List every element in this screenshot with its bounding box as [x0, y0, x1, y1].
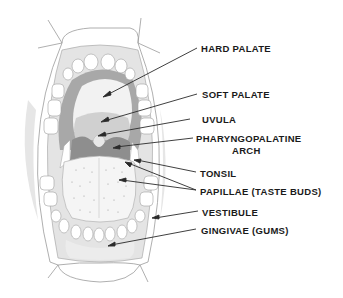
- label-gingivae: GINGIVAE (GUMS): [201, 225, 289, 236]
- cheek-shade-left: [25, 100, 38, 220]
- label-papillae: PAPILLAE (TASTE BUDS): [200, 186, 322, 197]
- label-uvula: UVULA: [202, 114, 236, 125]
- label-vestibule: VESTIBULE: [202, 207, 258, 218]
- label-tonsil: TONSIL: [200, 168, 236, 179]
- lower-lip: [48, 263, 148, 282]
- oral-cavity-diagram: [0, 0, 343, 298]
- label-pharyngopalatine-arch: PHARYNGOPALATINE: [196, 133, 301, 144]
- label-pharyngopalatine-arch-line2: ARCH: [232, 145, 261, 156]
- label-hard-palate: HARD PALATE: [201, 43, 271, 54]
- label-soft-palate: SOFT PALATE: [202, 89, 270, 100]
